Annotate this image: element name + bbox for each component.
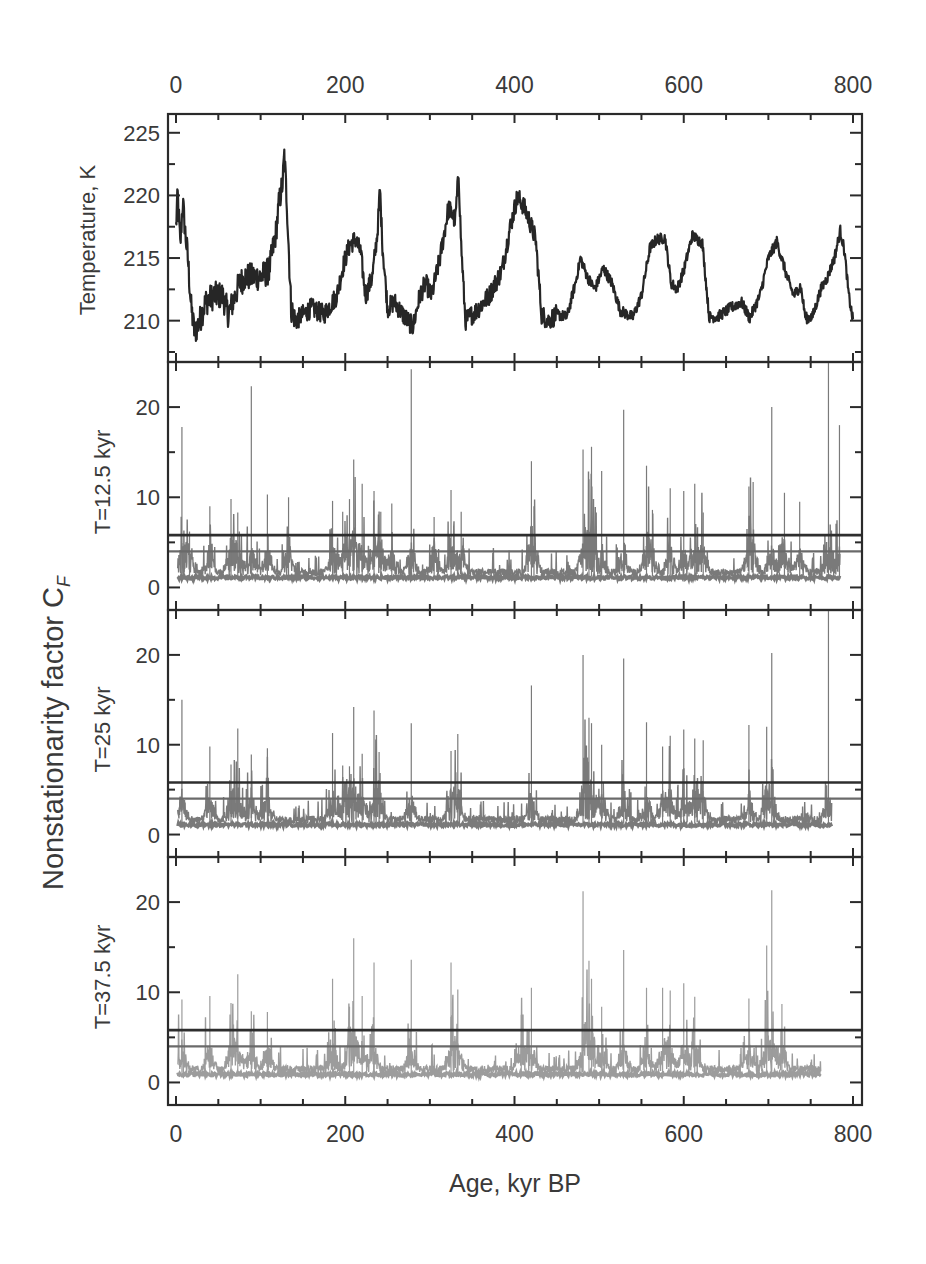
bottom-x-tick-label: 200	[326, 1121, 364, 1147]
svg-text:Nonstationarity factor CF: Nonstationarity factor CF	[37, 575, 74, 890]
bottom-x-tick-label: 400	[495, 1121, 533, 1147]
x-axis-label: Age, kyr BP	[449, 1169, 581, 1197]
bottom-x-tick-label: 800	[834, 1121, 872, 1147]
plot-area	[178, 362, 841, 579]
panel-temperature: 210215220225Temperature, K	[75, 114, 862, 362]
y-tick-label: 220	[123, 183, 160, 208]
y-tick-label: 20	[136, 890, 160, 915]
y-tick-label: 225	[123, 121, 160, 146]
panel-y-label: T=25 kyr	[90, 686, 115, 772]
y-tick-label: 0	[148, 575, 160, 600]
top-x-tick-label: 800	[834, 72, 872, 98]
cf-baseline	[178, 1073, 821, 1077]
top-x-tick-label: 0	[170, 72, 183, 98]
bottom-x-tick-label: 0	[170, 1121, 183, 1147]
panel-cf_25: 01020T=25 kyr	[90, 610, 862, 857]
y-tick-label: 0	[148, 823, 160, 848]
plot-area	[178, 890, 821, 1076]
cf-baseline	[178, 823, 832, 827]
bottom-x-tick-label: 600	[665, 1121, 703, 1147]
cf-series	[178, 472, 841, 577]
shared-y-axis-label-subscript: F	[54, 575, 74, 587]
figure: 0200400600800 210215220225Temperature, K…	[0, 0, 926, 1264]
top-x-tick-label: 400	[495, 72, 533, 98]
y-tick-label: 10	[136, 980, 160, 1005]
y-tick-label: 10	[136, 485, 160, 510]
panel-y-label: T=37.5 kyr	[90, 925, 115, 1030]
y-tick-label: 210	[123, 309, 160, 334]
stacked-chart: 0200400600800 210215220225Temperature, K…	[0, 0, 926, 1264]
y-tick-label: 0	[148, 1070, 160, 1095]
cf-series	[178, 719, 832, 823]
chart-panels: 210215220225Temperature, K01020T=12.5 ky…	[75, 114, 862, 1105]
shared-y-axis-label-text: Nonstationarity factor C	[37, 587, 69, 890]
panel-cf_37_5: 01020T=37.5 kyr	[90, 857, 862, 1105]
temperature-series	[176, 150, 853, 341]
shared-y-axis-label: Nonstationarity factor CF	[37, 575, 74, 890]
top-x-tick-label: 600	[665, 72, 703, 98]
panel-y-label: Temperature, K	[75, 164, 100, 315]
top-x-axis-tick-labels: 0200400600800	[170, 72, 873, 98]
y-tick-label: 215	[123, 246, 160, 271]
y-tick-label: 10	[136, 733, 160, 758]
bottom-x-axis-tick-labels: 0200400600800	[170, 1121, 873, 1147]
panel-y-label: T=12.5 kyr	[90, 430, 115, 535]
cf-series	[178, 970, 821, 1074]
plot-area	[176, 150, 853, 341]
plot-area	[178, 610, 832, 827]
panel-cf_12_5: 01020T=12.5 kyr	[90, 362, 862, 610]
y-tick-label: 20	[136, 395, 160, 420]
y-tick-label: 20	[136, 643, 160, 668]
top-x-tick-label: 200	[326, 72, 364, 98]
cf-baseline	[178, 576, 840, 580]
